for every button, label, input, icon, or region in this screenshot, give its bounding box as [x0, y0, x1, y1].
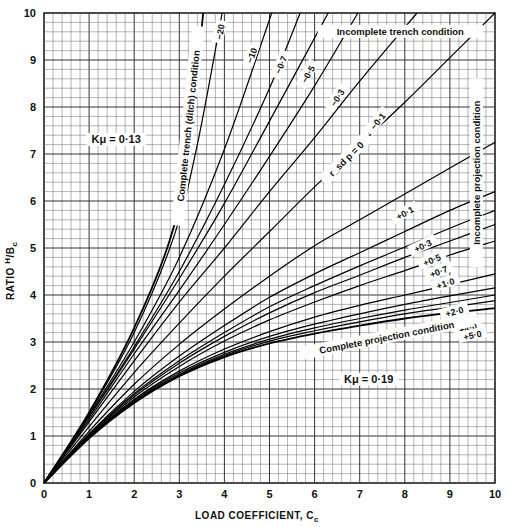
x-tick: 5: [266, 488, 272, 500]
annotation: Kμ = 0·19: [339, 373, 398, 386]
y-axis-label: RATIO H/Bc: [3, 242, 19, 300]
x-tick: 8: [402, 488, 408, 500]
y-tick: 7: [30, 148, 36, 160]
svg-text:Incomplete projection conditio: Incomplete projection condition: [471, 101, 482, 245]
x-tick: 10: [489, 488, 501, 500]
x-tick: 4: [221, 488, 228, 500]
y-tick: 6: [30, 195, 36, 207]
y-tick: 4: [30, 289, 37, 301]
svg-text:Kμ = 0·19: Kμ = 0·19: [344, 373, 393, 385]
x-tick: 0: [41, 488, 47, 500]
x-tick: 9: [447, 488, 453, 500]
x-tick: 6: [312, 488, 318, 500]
x-tick: 7: [357, 488, 363, 500]
annotation: Kμ = 0·13: [87, 133, 146, 146]
y-tick: 8: [30, 101, 36, 113]
x-tick: 1: [86, 488, 92, 500]
y-tick: 3: [30, 336, 36, 348]
x-axis-label: LOAD COEFFICIENT, Cc: [195, 510, 319, 524]
annotation: Incomplete trench condition: [318, 25, 483, 38]
svg-text:Incomplete trench condition: Incomplete trench condition: [337, 26, 464, 37]
svg-text:Kμ = 0·13: Kμ = 0·13: [92, 133, 141, 145]
y-tick: 1: [30, 430, 36, 442]
y-tick: 9: [30, 54, 36, 66]
y-tick: 0: [30, 477, 36, 489]
x-tick: 3: [176, 488, 182, 500]
chart: −20−10−0·7−0·5−0·3−0·1+0·1+0·3+0·5+0·7+1…: [0, 0, 509, 527]
y-tick: 2: [30, 383, 36, 395]
y-tick: 10: [24, 7, 36, 19]
annotation: Incomplete projection condition: [470, 78, 483, 267]
y-tick: 5: [30, 242, 36, 254]
x-tick: 2: [131, 488, 137, 500]
